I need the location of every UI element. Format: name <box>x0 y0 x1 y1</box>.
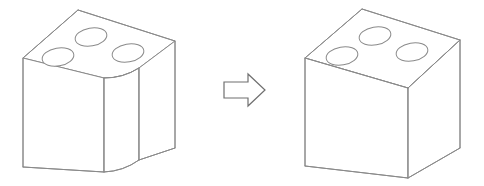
diagram-canvas <box>0 0 484 186</box>
technical-drawing-svg <box>0 0 484 186</box>
before-left-face <box>23 58 104 172</box>
before-fillet-face <box>104 68 139 172</box>
transformation-arrow-group[interactable] <box>224 74 265 106</box>
shape-after-sharp-corner-cube <box>305 9 460 178</box>
transformation-arrow-icon[interactable] <box>224 74 265 106</box>
shape-before-rounded-corner-block <box>23 10 175 172</box>
